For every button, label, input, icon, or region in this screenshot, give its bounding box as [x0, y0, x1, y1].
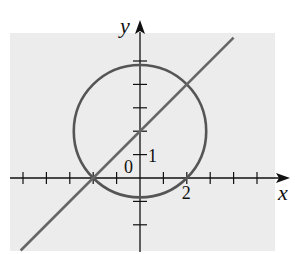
chart: x y 2 1 0: [0, 0, 295, 254]
y-axis-arrow-icon: [135, 20, 145, 34]
y-axis-label: y: [118, 13, 130, 38]
y-tick-label-1: 1: [148, 146, 157, 166]
x-tick-label-2: 2: [182, 183, 191, 203]
origin-label: 0: [124, 157, 133, 177]
x-axis-label: x: [277, 180, 288, 205]
